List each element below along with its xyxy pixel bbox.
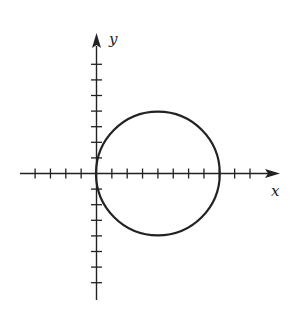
coordinate-plane: x y	[0, 0, 294, 312]
y-axis-arrow-icon	[92, 33, 101, 48]
x-axis	[20, 169, 280, 178]
x-axis-label: x	[271, 182, 280, 200]
y-axis-label: y	[108, 30, 118, 48]
